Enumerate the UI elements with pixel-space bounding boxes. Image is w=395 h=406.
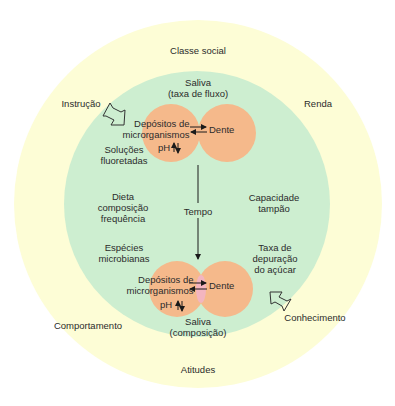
label-comportamento: Comportamento — [54, 320, 122, 331]
label-saliva-composicao: Saliva (composição) — [169, 316, 226, 338]
caries-factors-diagram: Classe social Instrução Renda Comportame… — [0, 0, 395, 406]
label-depositos-top: Depósitos de microrganismos — [122, 118, 189, 140]
label-depositos-bottom: Depósitos de microrganismos — [126, 274, 193, 296]
label-saliva-fluxo: Saliva (taxa de fluxo) — [168, 77, 228, 99]
label-classe-social: Classe social — [170, 45, 226, 56]
label-taxa-depuracao: Taxa de depuração do açúcar — [253, 242, 298, 275]
label-especies-microbianas: Espécies microbianas — [98, 242, 149, 264]
label-tempo: Tempo — [184, 206, 213, 217]
label-ph-bottom: pH — [160, 299, 172, 310]
label-renda: Renda — [304, 98, 332, 109]
label-conhecimento: Conhecimento — [284, 312, 345, 323]
label-dente-top: Dente — [209, 124, 234, 135]
label-capacidade-tampao: Capacidade tampão — [249, 192, 300, 214]
label-solucoes-fluoretadas: Soluções fluoretadas — [100, 144, 147, 166]
label-atitudes: Atitudes — [181, 364, 215, 375]
label-dieta: Dieta composição frequência — [98, 191, 149, 224]
diagram-graphics — [0, 0, 395, 406]
label-dente-bottom: Dente — [209, 280, 234, 291]
label-ph-top: pH — [158, 142, 170, 153]
label-instrucao: Instrução — [61, 98, 100, 109]
